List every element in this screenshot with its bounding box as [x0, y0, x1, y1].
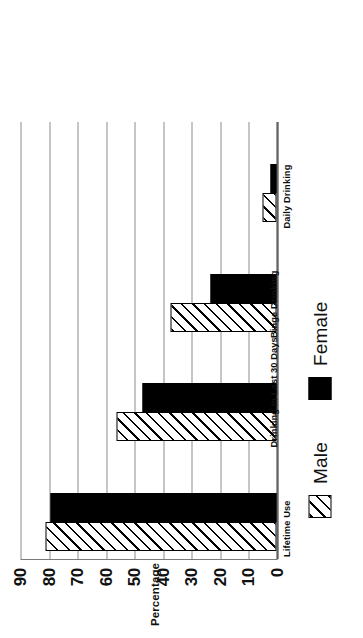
bar-chart: Percentage 0102030405060708090 Lifetime …	[0, 0, 363, 638]
bar-group: Drinking In Last 30 Days	[20, 340, 276, 450]
bar-female-0	[50, 493, 276, 522]
bar-male-3	[262, 194, 276, 223]
category-label-1: Drinking In Last 30 Days	[268, 337, 278, 447]
category-label-0: Lifetime Use	[281, 501, 291, 557]
legend-item-female[interactable]: Female	[308, 301, 331, 400]
bar-group: Binge Drinking	[20, 231, 276, 341]
category-label-2: Binge Drinking	[268, 270, 278, 338]
chart-legend: MaleFemale	[308, 301, 331, 518]
y-tick-label-60: 60	[96, 568, 116, 586]
y-tick-label-80: 80	[39, 568, 59, 586]
solid-swatch-icon	[308, 377, 331, 400]
legend-label-female: Female	[309, 301, 331, 366]
y-tick-label-50: 50	[124, 568, 144, 586]
y-tick-label-90: 90	[10, 568, 30, 586]
bar-group: Lifetime Use	[20, 450, 276, 560]
y-tick-label-40: 40	[153, 568, 173, 586]
legend-item-male[interactable]: Male	[308, 442, 331, 518]
y-tick-label-10: 10	[238, 568, 258, 586]
category-label-3: Daily Drinking	[281, 165, 291, 229]
y-tick-label-70: 70	[67, 568, 87, 586]
plot-area: 0102030405060708090 Lifetime UseDrinking…	[20, 122, 277, 560]
y-tick-label-20: 20	[210, 568, 230, 586]
bar-male-2	[170, 303, 276, 332]
bar-group: Daily Drinking	[20, 121, 276, 231]
rotated-figure-wrapper: Percentage 0102030405060708090 Lifetime …	[0, 0, 363, 638]
hatched-swatch-icon	[308, 495, 331, 518]
bar-male-0	[45, 522, 276, 551]
y-tick-label-0: 0	[267, 568, 287, 577]
legend-label-male: Male	[309, 442, 331, 484]
bar-female-3	[270, 165, 276, 194]
y-tick-label-30: 30	[181, 568, 201, 586]
bar-female-1	[142, 384, 276, 413]
bar-male-1	[116, 413, 276, 442]
bar-female-2	[210, 274, 276, 303]
